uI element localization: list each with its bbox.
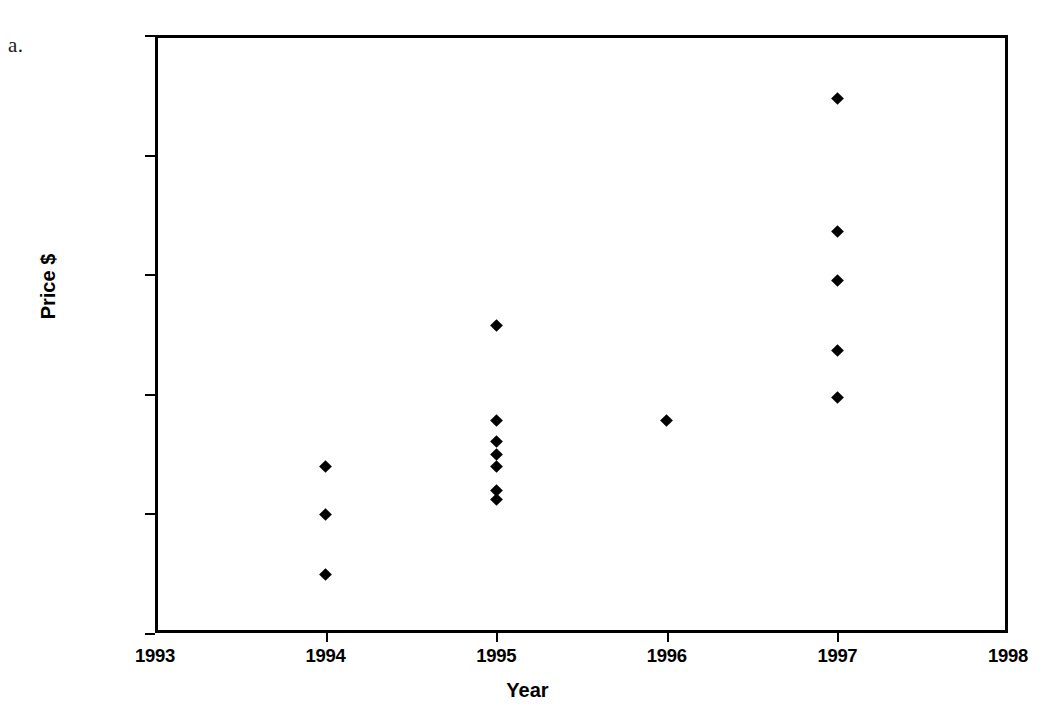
y-tick-mark — [145, 35, 155, 37]
y-tick-mark — [145, 633, 155, 635]
x-tick-label: 1998 — [948, 645, 1055, 667]
scatter-chart: Price $ Year 100001500020000250003000035… — [0, 0, 1055, 712]
data-point — [319, 460, 332, 473]
data-point — [490, 435, 503, 448]
data-point — [319, 568, 332, 581]
data-point — [831, 92, 844, 105]
data-point — [831, 225, 844, 238]
y-tick-mark — [145, 394, 155, 396]
data-point — [490, 414, 503, 427]
x-tick-mark — [326, 633, 328, 642]
x-tick-mark — [496, 633, 498, 642]
data-point — [319, 508, 332, 521]
x-tick-label: 1996 — [607, 645, 727, 667]
data-point — [831, 274, 844, 287]
data-point — [490, 319, 503, 332]
data-point — [660, 414, 673, 427]
data-point — [831, 344, 844, 357]
y-tick-mark — [145, 274, 155, 276]
x-tick-label: 1994 — [266, 645, 386, 667]
x-tick-label: 1995 — [436, 645, 556, 667]
x-tick-label: 1997 — [777, 645, 897, 667]
y-tick-mark — [145, 513, 155, 515]
data-point — [490, 493, 503, 506]
data-point — [490, 460, 503, 473]
x-tick-mark — [667, 633, 669, 642]
y-tick-mark — [145, 155, 155, 157]
y-axis-label: Price $ — [37, 217, 60, 357]
x-tick-mark — [837, 633, 839, 642]
data-point — [831, 391, 844, 404]
x-tick-label: 1993 — [95, 645, 215, 667]
x-axis-label: Year — [0, 679, 1055, 702]
plot-area — [155, 35, 1008, 633]
